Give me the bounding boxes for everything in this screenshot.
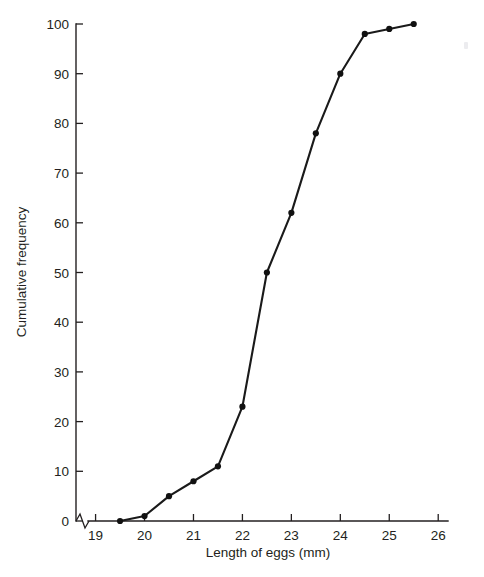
x-tick-label-24: 24 [333,528,349,543]
data-point [362,31,368,37]
y-axis-title: Cumulative frequency [14,206,29,337]
data-point [239,404,245,410]
y-tick-label-100: 100 [46,17,69,32]
y-tick-label-0: 0 [61,514,69,529]
chart-axes [76,24,448,528]
x-tick-label-22: 22 [235,528,250,543]
x-tick-label-26: 26 [431,528,446,543]
cumulative-frequency-chart: 0102030405060708090100 1920212223242526 … [0,0,484,577]
data-point [264,269,270,275]
data-point [411,21,417,27]
data-point [190,478,196,484]
x-tick-label-23: 23 [284,528,299,543]
data-point [117,518,123,524]
data-point [313,130,319,136]
data-point [386,26,392,32]
data-point [337,71,343,77]
y-tick-label-40: 40 [54,315,69,330]
x-tick-label-25: 25 [382,528,397,543]
y-tick-label-10: 10 [54,464,69,479]
data-point [166,493,172,499]
data-point [141,513,147,519]
y-tick-label-60: 60 [54,216,69,231]
y-tick-label-50: 50 [54,266,69,281]
x-axis-tick-labels: 1920212223242526 [88,528,446,543]
y-axis-ticks [76,24,83,521]
scan-artifacts [464,42,468,49]
x-tick-label-19: 19 [88,528,103,543]
data-point [288,210,294,216]
y-tick-label-80: 80 [54,116,69,131]
chart-canvas: 0102030405060708090100 1920212223242526 … [0,0,484,577]
y-axis-tick-labels: 0102030405060708090100 [46,17,69,529]
x-tick-label-20: 20 [137,528,152,543]
x-tick-label-21: 21 [186,528,201,543]
y-tick-label-30: 30 [54,365,69,380]
x-axis-title: Length of eggs (mm) [206,545,331,560]
y-tick-label-20: 20 [54,415,69,430]
y-tick-label-70: 70 [54,166,69,181]
data-points [117,21,417,524]
data-point [215,463,221,469]
y-tick-label-90: 90 [54,67,69,82]
